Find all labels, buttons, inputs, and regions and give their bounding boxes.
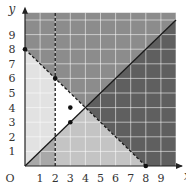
- x-tick-label: 6: [112, 172, 119, 185]
- data-point: [144, 164, 149, 169]
- x-tick-label: 3: [67, 172, 74, 185]
- origin-label: O: [5, 172, 14, 185]
- inequality-graph: 123456789123456789Oxy: [0, 0, 186, 190]
- y-tick-label: 6: [9, 72, 16, 85]
- x-tick-label: 7: [127, 172, 134, 185]
- x-tick-label: 4: [82, 172, 89, 185]
- x-axis-label: x: [184, 169, 186, 183]
- x-tick-label: 2: [52, 172, 59, 185]
- x-axis-arrow-icon: [176, 163, 183, 169]
- data-point: [53, 76, 58, 81]
- y-tick-label: 5: [9, 87, 16, 100]
- x-tick-label: 9: [157, 172, 164, 185]
- y-tick-label: 3: [9, 116, 16, 129]
- y-tick-label: 4: [9, 102, 16, 115]
- x-tick-label: 1: [37, 172, 44, 185]
- x-tick-label: 5: [97, 172, 104, 185]
- data-point: [23, 47, 28, 52]
- y-tick-label: 2: [9, 131, 16, 144]
- data-point: [68, 120, 73, 125]
- y-tick-label: 1: [9, 145, 16, 158]
- y-tick-label: 7: [9, 58, 16, 71]
- y-axis-arrow-icon: [22, 7, 28, 14]
- data-point: [68, 105, 73, 110]
- y-tick-label: 8: [9, 43, 16, 56]
- y-tick-label: 9: [9, 29, 16, 42]
- y-axis-label: y: [8, 2, 16, 16]
- x-tick-label: 8: [142, 172, 149, 185]
